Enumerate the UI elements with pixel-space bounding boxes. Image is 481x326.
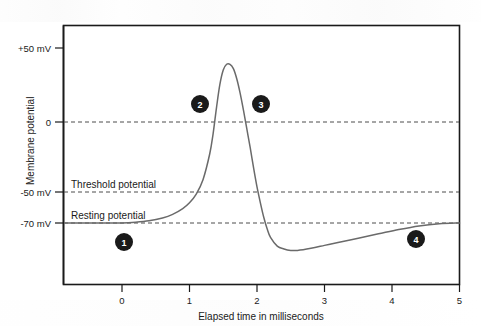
marker-4: 4 [407,230,425,248]
marker-1: 1 [115,233,133,251]
x-tick-label-4: 4 [389,295,394,306]
marker-2-label: 2 [197,100,202,110]
y-tick-label-minus50: -50 mV [20,187,51,198]
marker-3: 3 [252,95,270,113]
x-tick-label-5: 5 [457,295,462,306]
chart-svg: +50 mV 0 -50 mV -70 mV Membrane potentia… [0,0,481,326]
resting-potential-label: Resting potential [71,210,146,221]
x-tick-label-3: 3 [322,295,327,306]
y-tick-label-zero: 0 [46,117,51,128]
y-axis-title: Membrane potential [25,97,36,185]
action-potential-figure: +50 mV 0 -50 mV -70 mV Membrane potentia… [0,0,481,326]
marker-4-label: 4 [413,235,418,245]
x-tick-label-0: 0 [119,295,124,306]
marker-3-label: 3 [258,100,263,110]
y-tick-label-minus70: -70 mV [20,218,51,229]
x-tick-label-1: 1 [187,295,192,306]
marker-2: 2 [191,95,209,113]
x-tick-label-2: 2 [254,295,259,306]
threshold-potential-label: Threshold potential [71,179,156,190]
y-tick-label-plus50: +50 mV [18,43,52,54]
marker-1-label: 1 [121,238,126,248]
x-axis-title: Elapsed time in milliseconds [198,311,324,322]
